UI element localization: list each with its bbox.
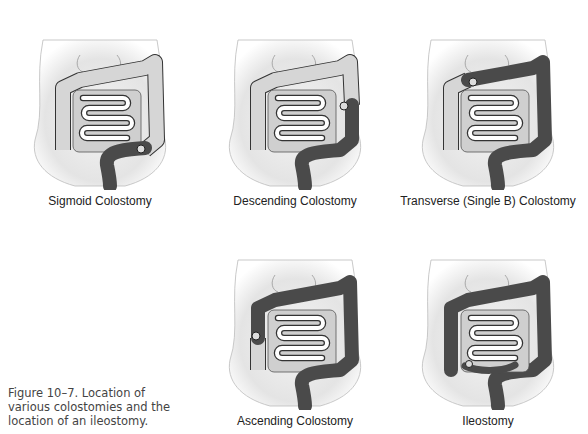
panel-caption: Ileostomy [393,414,583,428]
ascending-colostomy-illustration [200,220,390,410]
panel-descending-colostomy: Descending Colostomy [200,0,390,215]
panel-caption: Transverse (Single B) Colostomy [393,194,583,208]
panel-transverse-colostomy: Transverse (Single B) Colostomy [393,0,583,215]
panel-caption: Descending Colostomy [200,194,390,208]
panel-caption: Ascending Colostomy [200,414,390,428]
panel-ileostomy: Ileostomy [393,220,583,434]
figure-caption: Figure 10–7. Location of various colosto… [8,386,178,428]
sigmoid-colostomy-illustration [5,0,195,190]
ileostomy-illustration [393,220,583,410]
panel-ascending-colostomy: Ascending Colostomy [200,220,390,434]
panel-caption: Sigmoid Colostomy [5,194,195,208]
descending-colostomy-illustration [200,0,390,190]
panel-sigmoid-colostomy: Sigmoid Colostomy [5,0,195,215]
transverse-colostomy-illustration [393,0,583,190]
